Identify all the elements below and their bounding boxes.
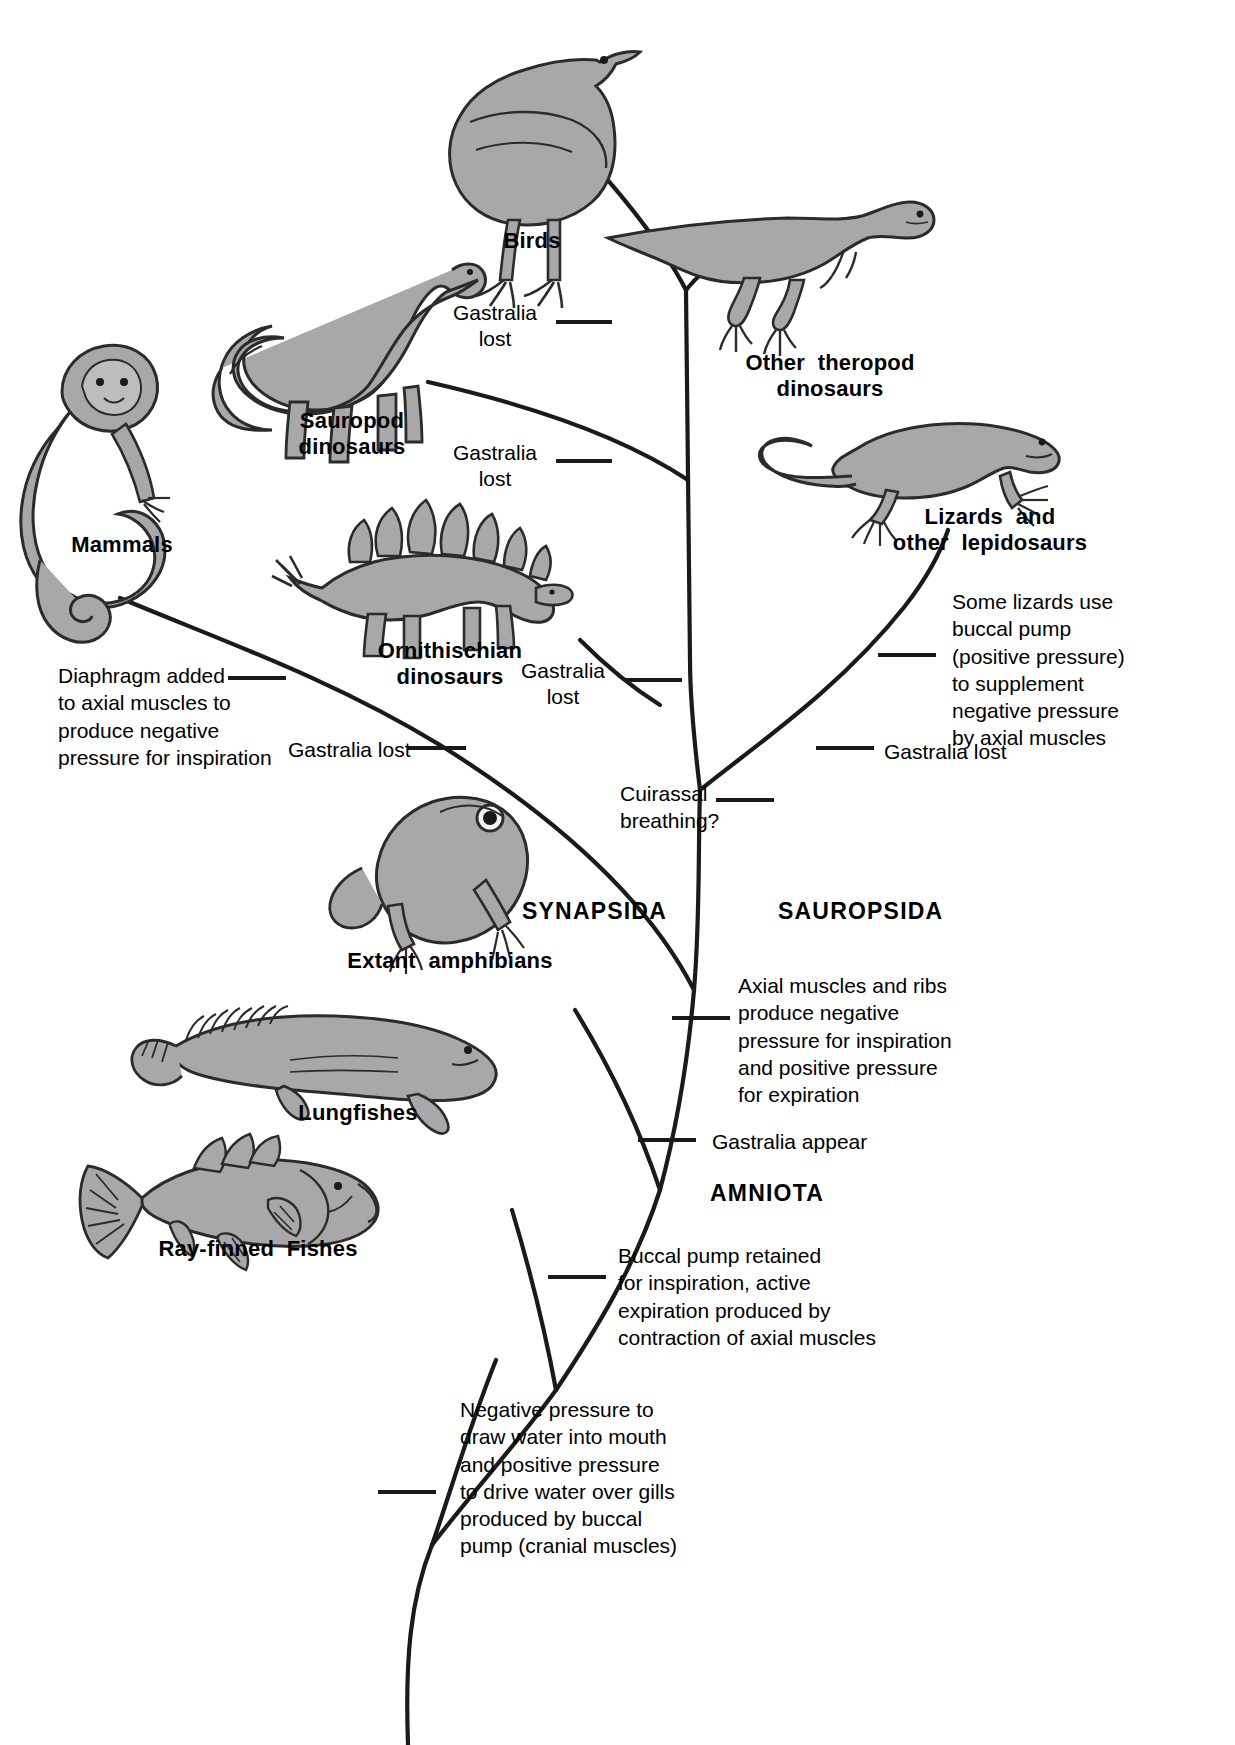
annotation-negative-pressure-water: Negative pressure to draw water into mou… — [460, 1396, 677, 1560]
branch-root — [407, 1545, 432, 1745]
annotation-gastralia-lost-birds: Gastralia lost — [440, 300, 550, 351]
annotation-axial-muscles-and-ribs: Axial muscles and ribs produce negative … — [738, 972, 952, 1108]
taxon-label-other-theropod-dinosaurs: Other theropod dinosaurs — [670, 350, 990, 402]
annotation-gastralia-appear: Gastralia appear — [712, 1128, 867, 1155]
theropod-illustration — [608, 202, 934, 356]
mammal-illustration — [21, 345, 170, 642]
annotation-gastralia-lost-mammals: Gastralia lost — [288, 736, 411, 763]
taxon-label-ray-finned-fishes: Ray-finned Fishes — [98, 1236, 418, 1262]
taxon-label-extant-amphibians: Extant amphibians — [300, 948, 600, 974]
ornithischian-illustration — [272, 500, 573, 658]
taxon-label-lizards-and-other-lepidosaurs: Lizards and other lepidosaurs — [820, 504, 1160, 556]
figure-canvas: Birds Other theropod dinosaurs Sauropod … — [0, 0, 1235, 1745]
annotation-buccal-pump-retained: Buccal pump retained for inspiration, ac… — [618, 1242, 876, 1351]
clade-label-amniota: AMNIOTA — [710, 1180, 824, 1207]
taxon-label-birds: Birds — [452, 228, 612, 254]
taxon-label-mammals: Mammals — [12, 532, 232, 558]
clade-label-synapsida: SYNAPSIDA — [522, 898, 667, 925]
annotation-diaphragm-added: Diaphragm added to axial muscles to prod… — [58, 662, 272, 771]
annotation-gastralia-lost-sauropod: Gastralia lost — [440, 440, 550, 491]
annotation-some-lizards-buccal-pump: Some lizards use buccal pump (positive p… — [952, 588, 1125, 752]
annotation-cuirassal-breathing: Cuirassal breathing? — [620, 780, 719, 835]
taxon-label-lungfishes: Lungfishes — [228, 1100, 488, 1126]
branch-lungfish-tip — [512, 1210, 556, 1390]
branch-amphibians — [575, 1010, 660, 1190]
annotation-gastralia-lost-ornithischian: Gastralia lost — [508, 658, 618, 709]
clade-label-sauropsida: SAUROPSIDA — [778, 898, 943, 925]
